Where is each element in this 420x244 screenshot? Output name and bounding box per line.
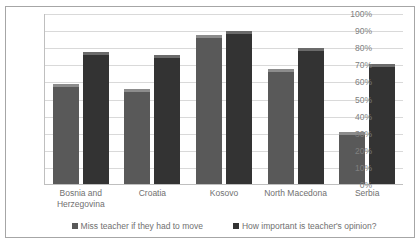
bar[interactable] bbox=[53, 84, 79, 185]
legend-swatch-icon bbox=[72, 223, 78, 229]
y-axis-tick-label: 20% bbox=[332, 147, 372, 155]
bar[interactable] bbox=[226, 31, 252, 185]
bar-group bbox=[117, 14, 189, 185]
bar-body bbox=[369, 67, 395, 185]
chart-legend: Miss teacher if they had to moveHow impo… bbox=[45, 219, 403, 233]
bar-group bbox=[260, 14, 332, 185]
legend-item[interactable]: How important is teacher's opinion? bbox=[233, 221, 376, 231]
legend-label: How important is teacher's opinion? bbox=[242, 221, 376, 231]
x-axis-category-label-line: Croatia bbox=[117, 188, 189, 199]
legend-label: Miss teacher if they had to move bbox=[81, 221, 203, 231]
bar[interactable] bbox=[298, 48, 324, 185]
x-axis-category-label-line: North Macedona bbox=[260, 188, 332, 199]
x-axis-category-label: Kosovo bbox=[188, 188, 260, 199]
y-axis-tick-label: 80% bbox=[332, 44, 372, 52]
x-axis-category-label-line: Kosovo bbox=[188, 188, 260, 199]
y-axis-tick-label: 60% bbox=[332, 78, 372, 86]
bar-body bbox=[298, 51, 324, 185]
bar-body bbox=[196, 38, 222, 185]
bar-body bbox=[226, 34, 252, 185]
legend-item[interactable]: Miss teacher if they had to move bbox=[72, 221, 203, 231]
x-axis-category-labels: Bosnia andHerzegovinaCroatiaKosovoNorth … bbox=[45, 188, 403, 216]
x-axis-category-label: North Macedona bbox=[260, 188, 332, 199]
bar-group bbox=[188, 14, 260, 185]
bar-body bbox=[53, 87, 79, 185]
bar[interactable] bbox=[268, 69, 294, 185]
y-axis-tick-label: 70% bbox=[332, 61, 372, 69]
bar-body bbox=[339, 135, 365, 185]
bar[interactable] bbox=[83, 52, 109, 185]
bar[interactable] bbox=[124, 89, 150, 185]
bar[interactable] bbox=[154, 55, 180, 185]
y-axis-tick-label: 30% bbox=[332, 130, 372, 138]
y-axis-tick-label: 100% bbox=[332, 10, 372, 18]
bar-body bbox=[154, 58, 180, 185]
y-axis-tick-label: 90% bbox=[332, 27, 372, 35]
bar[interactable] bbox=[369, 64, 395, 185]
x-axis-category-label: Bosnia andHerzegovina bbox=[45, 188, 117, 210]
y-axis-tick-label: 50% bbox=[332, 96, 372, 104]
y-axis-tick-label: 10% bbox=[332, 164, 372, 172]
x-axis-category-label: Croatia bbox=[117, 188, 189, 199]
bar-body bbox=[268, 72, 294, 185]
x-axis-category-label-line: Bosnia and bbox=[45, 188, 117, 199]
bar-group bbox=[45, 14, 117, 185]
x-axis-category-label-line: Herzegovina bbox=[45, 199, 117, 210]
x-axis-category-label-line: Serbia bbox=[331, 188, 403, 199]
chart-title bbox=[0, 0, 420, 3]
x-axis-category-label: Serbia bbox=[331, 188, 403, 199]
bar-chart-figure: 0%10%20%30%40%50%60%70%80%90%100% Bosnia… bbox=[0, 0, 420, 244]
legend-swatch-icon bbox=[233, 223, 239, 229]
bar-body bbox=[83, 55, 109, 185]
y-axis-tick-label: 40% bbox=[332, 113, 372, 121]
bar[interactable] bbox=[339, 132, 365, 185]
bar-body bbox=[124, 92, 150, 185]
bar[interactable] bbox=[196, 35, 222, 185]
